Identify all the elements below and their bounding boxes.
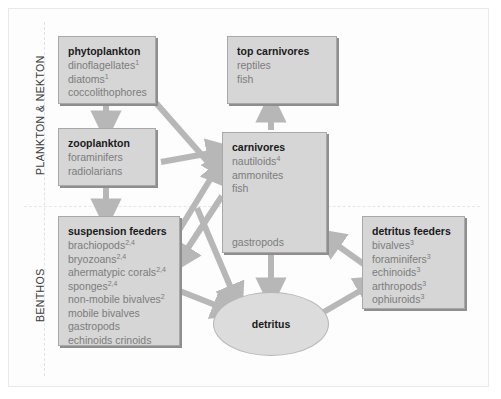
zone-label-plankton-nekton: PLANKTON & NEKTON (34, 55, 46, 175)
node-title: carnivores (232, 140, 317, 154)
node-item: ahermatypic corals2,4 (68, 266, 170, 280)
node-item: echinoids crinoids (68, 334, 170, 348)
node-item: reptiles (237, 59, 327, 73)
node-title: zooplankton (68, 136, 146, 150)
node-item: brachiopods2,4 (68, 239, 170, 253)
node-item: sponges2,4 (68, 280, 170, 294)
node-phytoplankton[interactable]: phytoplankton dinoflagellates1 diatoms1 … (58, 36, 156, 104)
node-item: bivalves3 (372, 239, 455, 253)
node-item: fish (237, 73, 327, 87)
node-item: foraminifers3 (372, 253, 455, 267)
node-top-carnivores[interactable]: top carnivores reptiles fish (227, 36, 337, 104)
node-item: bryozoans2,4 (68, 253, 170, 267)
node-item: ammonites (232, 169, 317, 183)
node-suspension-feeders[interactable]: suspension feeders brachiopods2,4 bryozo… (58, 216, 180, 346)
node-item: gastropods (232, 236, 317, 250)
node-item: dinoflagellates1 (68, 59, 146, 73)
node-item: foraminifers (68, 151, 146, 165)
node-item: ophiuroids3 (372, 293, 455, 307)
node-carnivores[interactable]: carnivores nautiloids4 ammonites fish ga… (222, 132, 327, 253)
node-item: coccolithophores (68, 86, 146, 100)
node-title: suspension feeders (68, 224, 170, 238)
node-item: arthropods3 (372, 280, 455, 294)
node-zooplankton[interactable]: zooplankton foraminifers radiolarians (58, 128, 156, 186)
node-item: non-mobile bivalves2 (68, 293, 170, 307)
node-detritus[interactable]: detritus (213, 292, 329, 356)
node-title: top carnivores (237, 44, 327, 58)
node-item: gastropods (68, 320, 170, 334)
node-title: detritus feeders (372, 224, 455, 238)
node-title: phytoplankton (68, 44, 146, 58)
node-title: detritus (252, 318, 291, 330)
node-item: echinoids3 (372, 266, 455, 280)
node-detritus-feeders[interactable]: detritus feeders bivalves3 foraminifers3… (362, 216, 465, 309)
food-web-diagram: PLANKTON & NEKTON BENTHOS phytoplankton … (0, 0, 501, 399)
zone-label-benthos: BENTHOS (34, 268, 46, 322)
node-item: radiolarians (68, 165, 146, 179)
node-item: mobile bivalves (68, 307, 170, 321)
node-item: fish (232, 182, 317, 196)
node-item: nautiloids4 (232, 155, 317, 169)
node-item: diatoms1 (68, 73, 146, 87)
node-item-spacer (232, 196, 317, 236)
